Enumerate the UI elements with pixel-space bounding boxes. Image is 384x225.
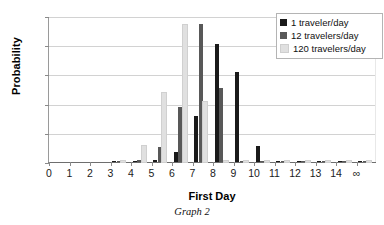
bar <box>342 161 346 162</box>
bar <box>183 25 187 162</box>
bar <box>301 161 305 162</box>
y-tick-mark <box>45 105 49 106</box>
bar <box>326 161 330 162</box>
bar <box>367 161 371 162</box>
bar <box>133 161 137 162</box>
bar <box>174 152 178 162</box>
x-tick-mark <box>336 162 337 166</box>
bar <box>285 161 289 162</box>
y-tick-mark <box>45 75 49 76</box>
x-tick-mark <box>213 162 214 166</box>
legend-label: 1 traveler/day <box>291 17 349 28</box>
x-axis-title: First Day <box>48 190 376 202</box>
legend-label: 12 travelers/day <box>291 30 359 41</box>
x-tick-mark <box>70 162 71 166</box>
bar <box>142 146 146 162</box>
graph-2-figure: Probability 00.10.20.30.40.5012345678910… <box>0 0 384 225</box>
bar <box>219 88 223 162</box>
bar <box>358 161 362 162</box>
chart-legend: 1 traveler/day12 travelers/day120 travel… <box>276 13 383 59</box>
bar <box>153 160 157 162</box>
figure-caption: Graph 2 <box>0 206 384 217</box>
x-tick-label: ∞ <box>345 167 369 179</box>
bar <box>306 161 310 162</box>
y-axis-title: Probability <box>10 6 22 126</box>
gridline <box>49 134 376 135</box>
x-tick-mark <box>234 162 235 166</box>
bar <box>203 102 207 162</box>
bar <box>137 160 141 162</box>
bar <box>235 72 239 162</box>
x-tick-mark <box>193 162 194 166</box>
bar <box>276 161 280 162</box>
legend-item: 1 traveler/day <box>280 16 380 29</box>
bar <box>281 161 285 162</box>
bar <box>244 161 248 162</box>
legend-swatch <box>280 32 287 39</box>
bar <box>338 161 342 162</box>
legend-item: 12 travelers/day <box>280 29 380 42</box>
x-tick-mark <box>152 162 153 166</box>
bar <box>260 161 264 162</box>
x-tick-mark <box>295 162 296 166</box>
x-tick-mark <box>90 162 91 166</box>
bar <box>224 161 228 162</box>
bar <box>215 44 219 162</box>
x-tick-mark <box>131 162 132 166</box>
legend-label: 120 travelers/day <box>293 43 366 54</box>
bar <box>178 107 182 162</box>
bar <box>158 147 162 162</box>
x-tick-mark <box>357 162 358 166</box>
bar <box>162 93 166 162</box>
bar <box>322 161 326 162</box>
x-tick-mark <box>49 162 50 166</box>
bar <box>256 146 260 162</box>
bar <box>117 161 121 162</box>
x-tick-mark <box>172 162 173 166</box>
legend-swatch <box>280 19 287 26</box>
bar <box>297 161 301 162</box>
legend-swatch <box>280 44 289 53</box>
bar <box>121 161 125 162</box>
bar <box>363 161 367 162</box>
bar <box>199 24 203 162</box>
bar <box>265 161 269 162</box>
x-tick-mark <box>254 162 255 166</box>
x-tick-mark <box>275 162 276 166</box>
gridline <box>49 105 376 106</box>
bar <box>112 161 116 162</box>
x-tick-mark <box>316 162 317 166</box>
bar <box>240 161 244 162</box>
bar <box>194 116 198 162</box>
bar <box>347 161 351 162</box>
y-tick-mark <box>45 134 49 135</box>
x-tick-mark <box>111 162 112 166</box>
legend-item: 120 travelers/day <box>280 42 380 55</box>
bar <box>317 161 321 162</box>
y-tick-mark <box>45 17 49 18</box>
y-tick-mark <box>45 46 49 47</box>
gridline <box>49 75 376 76</box>
